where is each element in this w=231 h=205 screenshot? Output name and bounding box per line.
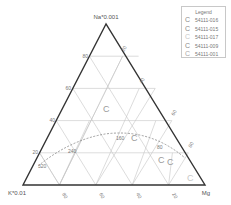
data-point: C	[103, 104, 110, 114]
legend-item: C 54111-009	[182, 42, 225, 51]
legend-item: C 54111-001	[182, 50, 225, 59]
curve-label-320: 320	[38, 163, 47, 169]
legend-item: C 54111-016	[182, 16, 225, 25]
curve-label-240: 240	[68, 148, 77, 154]
right-tick: 60	[170, 108, 178, 116]
data-point: C	[187, 173, 194, 183]
legend-label: 54111-009	[195, 43, 218, 49]
apex-label-top: Na*0.001	[93, 14, 119, 20]
curve-label-80: 80	[157, 144, 163, 150]
right-tick: 80	[187, 140, 195, 148]
c-marker-icon: C	[185, 16, 195, 24]
bottom-tick: 60	[98, 192, 106, 200]
legend-item: C 54111-017	[182, 33, 225, 42]
legend-label: 54111-017	[195, 34, 218, 40]
left-tick: 40	[49, 117, 55, 123]
data-points: C C C C C	[103, 104, 194, 183]
apex-label-right: Mg	[202, 190, 210, 196]
triangle-frame	[23, 24, 205, 185]
data-point: C	[158, 155, 165, 165]
right-tick: 40	[138, 76, 146, 84]
legend-label: 54111-001	[195, 51, 218, 57]
c-marker-icon: C	[185, 50, 195, 58]
left-tick: 20	[32, 149, 38, 155]
legend-item: C 54111-015	[182, 25, 225, 34]
legend-label: 54111-015	[195, 26, 218, 32]
legend-label: 54111-016	[195, 17, 218, 23]
apex-label-left: K*0.01	[8, 190, 27, 196]
bottom-tick: 40	[135, 192, 143, 200]
right-tick: 20	[120, 44, 128, 52]
c-marker-icon: C	[185, 42, 195, 50]
data-point: C	[167, 157, 174, 167]
legend-title: Legend	[182, 9, 225, 16]
curve-label-160: 160	[116, 135, 125, 141]
left-tick: 60	[65, 85, 71, 91]
c-marker-icon: C	[185, 25, 195, 33]
data-point: C	[131, 133, 138, 143]
bottom-tick: 20	[171, 192, 179, 200]
c-marker-icon: C	[185, 33, 195, 41]
left-tick: 80	[82, 53, 88, 59]
bottom-tick: 80	[61, 192, 69, 200]
legend: Legend C 54111-016 C 54111-015 C 54111-0…	[181, 6, 226, 58]
